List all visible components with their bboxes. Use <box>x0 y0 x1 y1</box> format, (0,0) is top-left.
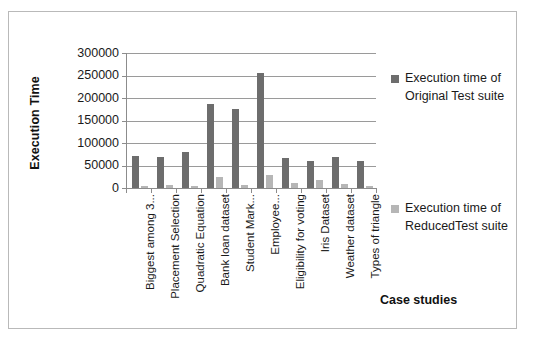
x-category-label-text: Eligibility for voting <box>294 194 306 312</box>
x-category-label: Employee... <box>269 76 281 194</box>
bar-original-0[interactable] <box>132 156 139 188</box>
x-tick-mark <box>326 188 327 193</box>
bar-original-2[interactable] <box>182 152 189 188</box>
legend-swatch-reduced-icon <box>391 205 399 213</box>
x-category-label: Placement Selection <box>169 76 181 194</box>
x-category-label: Biggest among 3... <box>144 76 156 194</box>
x-category-label-text: Employee... <box>269 194 281 312</box>
bar-original-3[interactable] <box>207 104 214 188</box>
x-category-label-text: Quadratic Equation <box>194 194 206 312</box>
bar-original-7[interactable] <box>307 161 314 188</box>
x-category-label-text: Placement Selection <box>169 194 181 312</box>
x-tick-mark <box>301 188 302 193</box>
legend-entry-reduced[interactable]: Execution time of ReducedTest suite <box>391 200 523 235</box>
x-category-label-text: Types of triangle <box>369 194 381 312</box>
y-tick-label: 0 <box>53 182 119 195</box>
x-tick-mark <box>226 188 227 193</box>
x-tick-mark <box>251 188 252 193</box>
y-axis-tick-labels: 300000250000200000150000100000500000 <box>53 46 119 196</box>
x-tick-mark <box>126 188 127 193</box>
x-category-label-text: Student Mark... <box>244 194 256 312</box>
chart-frame: Execution Time 3000002500002000001500001… <box>8 11 517 329</box>
bar-original-1[interactable] <box>157 157 164 188</box>
legend-label-reduced: Execution time of ReducedTest suite <box>405 200 523 235</box>
x-tick-mark <box>276 188 277 193</box>
legend-swatch-original-icon <box>391 75 399 83</box>
y-axis-title: Execution Time <box>28 63 42 183</box>
x-category-label: Bank loan dataset <box>219 76 231 194</box>
x-tick-mark <box>376 188 377 193</box>
y-tick-label: 50000 <box>53 159 119 172</box>
bar-original-5[interactable] <box>257 73 264 188</box>
x-category-label: Weather dataset <box>344 76 356 194</box>
legend-label-original: Execution time of Original Test suite <box>405 70 523 105</box>
y-tick-label: 200000 <box>53 92 119 105</box>
x-tick-mark <box>201 188 202 193</box>
x-category-label-text: Biggest among 3... <box>144 194 156 312</box>
y-tick-label: 300000 <box>53 47 119 60</box>
x-tick-mark <box>351 188 352 193</box>
x-category-label: Quadratic Equation <box>194 76 206 194</box>
x-category-label: Types of triangle <box>369 76 381 194</box>
x-category-label-text: Weather dataset <box>344 194 356 312</box>
x-tick-mark <box>176 188 177 193</box>
x-category-label: Eligibility for voting <box>294 76 306 194</box>
y-tick-label: 250000 <box>53 69 119 82</box>
x-tick-mark <box>151 188 152 193</box>
y-tick-label: 100000 <box>53 137 119 150</box>
x-axis-title: Case studies <box>380 293 457 307</box>
x-category-label-text: Bank loan dataset <box>219 194 231 312</box>
bar-original-9[interactable] <box>357 161 364 188</box>
bar-original-8[interactable] <box>332 157 339 188</box>
bar-original-4[interactable] <box>232 109 239 188</box>
x-category-label-text: Iris Dataset <box>319 194 331 312</box>
legend-entry-original[interactable]: Execution time of Original Test suite <box>391 70 523 105</box>
bar-original-6[interactable] <box>282 158 289 188</box>
y-tick-label: 150000 <box>53 114 119 127</box>
x-category-label: Student Mark... <box>244 76 256 194</box>
x-category-label: Iris Dataset <box>319 76 331 194</box>
